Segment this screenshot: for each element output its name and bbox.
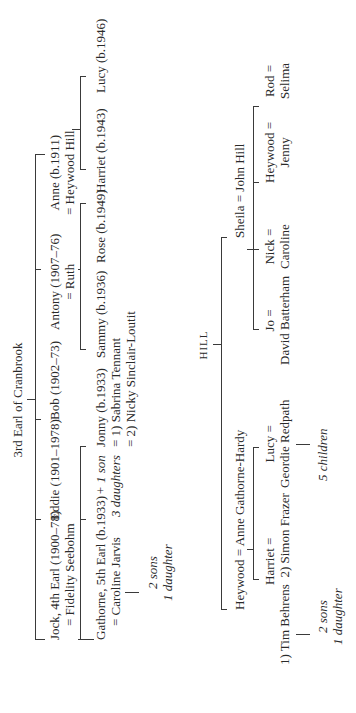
drop-heywood-jr — [253, 182, 259, 183]
person-name: Rod = — [262, 63, 277, 99]
issue-daughter: 1 daughter — [330, 588, 345, 645]
drop-heywood — [221, 609, 227, 610]
person-rose: Rose (b.1949) — [93, 189, 108, 263]
person-sammy: Sammy (b.1936) — [93, 271, 108, 358]
drop-anne — [35, 154, 45, 155]
root-stem — [27, 399, 35, 400]
person-antony: Antony (1907–76) = Ruth — [47, 234, 77, 330]
person-name: Anne (b.1911) — [47, 130, 62, 215]
couple-sheila-john: Sheila = John Hill — [232, 144, 247, 238]
person-nick: Nick = Caroline — [262, 224, 292, 269]
drop-rod — [253, 106, 259, 107]
drop-jonny — [80, 446, 86, 447]
person-harriet: Harriet (b.1943) — [93, 109, 108, 193]
jock-other-children: + 1 son 3 daughters — [93, 455, 123, 517]
person-jo: Jo = David Batterham — [262, 276, 292, 365]
issue-daughter: 1 daughter — [160, 544, 175, 601]
couple-heywood-anne: Heywood = Anne Gathorne-Hardy — [232, 430, 247, 610]
anne-stem — [72, 129, 80, 130]
hill-bracket — [221, 238, 222, 610]
person-name: Eddie (1901–1978) — [47, 419, 62, 520]
person-name: Bob (1902–73) — [47, 341, 62, 420]
anne-children-bracket — [80, 77, 81, 170]
person-name: Jo = — [262, 276, 277, 365]
spouse-2: 2) Simon Frazer — [277, 493, 292, 577]
drop-harriet — [80, 169, 86, 170]
tree-root-title: 3rd Earl of Cranbrook — [10, 342, 25, 457]
spouse-name: Selima — [277, 63, 292, 99]
gathorne-issue-line — [125, 592, 139, 593]
sheila-children-bracket — [253, 107, 254, 330]
person-anne: Anne (b.1911) = Heywood Hill — [47, 130, 77, 215]
spouse-name: Caroline — [277, 224, 292, 269]
spouse-2: = 2) Nicky Sinclair-Loutit — [123, 311, 138, 447]
lucy-issue-line — [296, 444, 310, 445]
drop-lucy — [80, 76, 86, 77]
drop-h-lucy — [253, 447, 259, 448]
person-name: Heywood = — [262, 122, 277, 183]
hill-stem — [213, 344, 221, 345]
drop-sheila — [221, 237, 227, 238]
person-bob: Bob (1902–73) — [47, 341, 62, 420]
person-eddie: Eddie (1901–1978) — [47, 419, 62, 520]
person-name: Gathorne, 5th Earl (b.1933) — [93, 496, 108, 640]
person-name: Lucy = — [262, 400, 277, 488]
others-son: + 1 son — [93, 455, 108, 517]
spouse-name: = Fidelity Seebohm — [62, 511, 77, 640]
drop-rose — [80, 203, 86, 204]
person-lucy: Lucy (b.1946) — [93, 19, 108, 93]
spouse-name: Geordie Redpath — [277, 400, 292, 488]
drop-jock — [35, 639, 45, 640]
person-name: Antony (1907–76) — [47, 234, 62, 330]
person-jock: Jock, 4th Earl (1900–78) = Fidelity Seeb… — [47, 511, 77, 640]
person-hill-harriet: Harriet = 1) Tim Behrens 2) Simon Frazer — [262, 493, 292, 665]
spouse-name: = Ruth — [62, 234, 77, 330]
jock-children-bracket — [80, 447, 81, 640]
harriet-issue: 2 sons 1 daughter — [315, 588, 345, 645]
children-bracket — [35, 155, 36, 640]
harriet-issue-line — [296, 634, 310, 635]
person-name: Harriet = — [262, 493, 277, 665]
person-gathorne: Gathorne, 5th Earl (b.1933) = Caroline J… — [93, 496, 123, 640]
heywood-children-bracket — [253, 448, 254, 580]
person-rod: Rod = Selima — [262, 63, 292, 99]
spouse-name: Jenny — [277, 122, 292, 183]
spouse-1: = 1) Sabrina Tennant — [108, 311, 123, 447]
spouse-1: 1) Tim Behrens — [277, 584, 292, 665]
person-name: Nick = — [262, 224, 277, 269]
family-tree-diagram: 3rd Earl of Cranbrook Jock, 4th Earl (19… — [0, 0, 356, 713]
person-heywood-jr: Heywood = Jenny — [262, 122, 292, 183]
hill-section-label: HILL — [196, 330, 211, 359]
gathorne-issue: 2 sons 1 daughter — [145, 544, 175, 601]
spouse-name: = Heywood Hill — [62, 130, 77, 215]
drop-bob — [35, 419, 41, 420]
drop-others — [80, 519, 86, 520]
spouse-name: = Caroline Jarvis — [108, 496, 123, 640]
drop-h-harriet — [253, 579, 259, 580]
others-daughters: 3 daughters — [108, 455, 123, 517]
drop-eddie — [35, 519, 41, 520]
drop-nick — [253, 249, 259, 250]
lucy-issue: 5 children — [315, 428, 330, 481]
issue-sons: 2 sons — [145, 544, 160, 601]
spouse-name: David Batterham — [277, 276, 292, 365]
antony-children-bracket — [80, 204, 81, 350]
drop-jo — [253, 329, 259, 330]
drop-antony — [35, 269, 41, 270]
drop-sammy — [80, 349, 86, 350]
person-name: Jock, 4th Earl (1900–78) — [47, 511, 62, 640]
issue-sons: 2 sons — [315, 588, 330, 645]
person-hill-lucy: Lucy = Geordie Redpath — [262, 400, 292, 488]
